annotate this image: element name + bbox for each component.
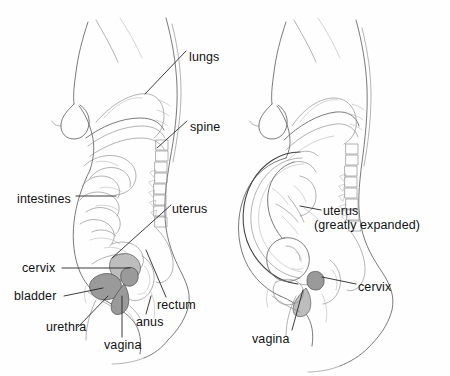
label-bladder: bladder (14, 289, 56, 303)
label-vagina-pregnant: vagina (252, 332, 289, 346)
label-uterus: uterus (172, 202, 207, 216)
label-cervix-pregnant: cervix (358, 280, 391, 294)
label-cervix: cervix (22, 261, 55, 275)
label-spine: spine (190, 120, 220, 134)
label-uterus-expanded-line2: (greatly expanded) (314, 218, 420, 233)
label-urethra: urethra (46, 320, 86, 334)
label-uterus-expanded-line1: uterus (323, 204, 358, 219)
label-anus: anus (136, 315, 164, 329)
label-rectum: rectum (157, 298, 196, 312)
anatomy-diagram-page: .ln { fill:none; stroke:#6b6b6b; stroke-… (0, 0, 450, 376)
label-intestines: intestines (17, 192, 71, 206)
label-vagina: vagina (104, 338, 141, 352)
label-lungs: lungs (189, 50, 219, 64)
